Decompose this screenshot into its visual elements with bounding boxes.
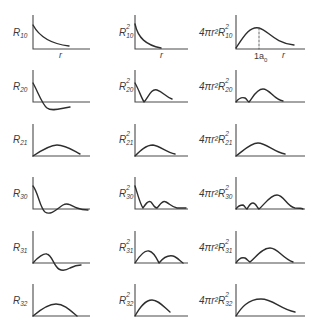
- axes-rdf-32: [236, 284, 305, 316]
- axes-r32: [33, 284, 90, 316]
- label-r10: R10: [13, 28, 27, 40]
- label-r10-squared: R210: [119, 28, 135, 38]
- label-r30-squared: R230: [119, 189, 135, 199]
- curve-rdf-10: [236, 28, 294, 48]
- curve-r31-squared: [135, 251, 183, 263]
- axes-rdf-10: [236, 15, 305, 49]
- curve-rdf30-placeholder: [135, 186, 186, 208]
- curve-r31: [33, 254, 81, 271]
- label-rdf-10: 4πr²R210: [199, 28, 234, 38]
- axes-rdf-30: [236, 177, 305, 209]
- axes-r20-squared: [135, 70, 188, 102]
- curve-r10: [33, 25, 69, 46]
- curve-r32-squared: [135, 300, 170, 316]
- label-r31: R31: [13, 243, 27, 255]
- axes-r30-squared: [135, 177, 188, 209]
- curve-rdf-30: [236, 195, 303, 209]
- curve-r20-squared: [135, 83, 172, 102]
- axes-r32-squared: [135, 284, 188, 316]
- curve-rdf-20: [236, 89, 283, 102]
- radial-functions-diagram: r r r 1a0 R10 R20 R21 R30 R31 R32 R210 R…: [0, 0, 322, 333]
- label-r20-squared: R220: [119, 82, 135, 92]
- label-r30: R30: [13, 189, 27, 201]
- label-rdf-30: 4πr²R230: [199, 189, 234, 199]
- bohr-radius-tick: 1a0: [254, 51, 267, 63]
- axes-r30: [33, 177, 90, 209]
- x-axis-label-r10: r: [59, 50, 62, 60]
- curve-rdf-32: [236, 299, 295, 316]
- label-rdf-32: 4πr²R232: [199, 296, 234, 306]
- label-r20: R20: [13, 82, 27, 94]
- axes-r10: [33, 15, 90, 49]
- label-rdf-21: 4πr²R221: [199, 135, 234, 145]
- axes-r21-squared: [135, 124, 188, 156]
- x-axis-label-rdf-10: r: [282, 50, 285, 60]
- curve-r10-squared: [135, 24, 161, 48]
- label-rdf-20: 4πr²R220: [199, 82, 234, 92]
- axes-r20: [33, 70, 90, 102]
- label-r32: R32: [13, 296, 27, 308]
- x-axis-label-r10-squared: r: [160, 50, 163, 60]
- label-r32-squared: R232: [119, 296, 135, 306]
- curve-r21-squared: [135, 145, 175, 156]
- axes-rdf-21: [236, 124, 305, 156]
- curve-r21: [33, 145, 80, 156]
- label-r21-squared: R221: [119, 135, 135, 145]
- label-rdf-31: 4πr²R231: [199, 243, 234, 253]
- curve-rdf-21: [236, 143, 285, 156]
- axes-r31-squared: [135, 231, 188, 263]
- axes-r31: [33, 231, 90, 263]
- curve-r32: [33, 304, 77, 316]
- axes-rdf-20: [236, 70, 305, 102]
- curve-rdf-31: [236, 248, 293, 263]
- label-r31-squared: R231: [119, 243, 135, 253]
- axes-r10-squared: [135, 15, 188, 49]
- curve-r20: [33, 83, 70, 110]
- label-r21: R21: [13, 135, 27, 147]
